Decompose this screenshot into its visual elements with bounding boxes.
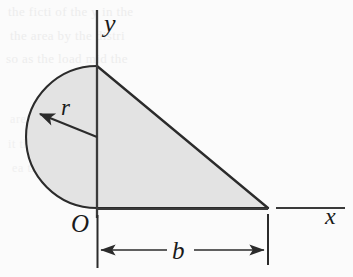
y-axis-label: y: [101, 9, 116, 38]
x-axis-label: x: [324, 203, 336, 229]
radius-label: r: [61, 95, 71, 120]
geometry-figure-container: the ficti of the y in the the area by th…: [0, 0, 353, 277]
semicircle-region: [26, 66, 97, 208]
geometry-figure-svg: the ficti of the y in the the area by th…: [0, 0, 353, 277]
origin-label: O: [71, 210, 89, 237]
base-dimension-label: b: [172, 237, 185, 264]
bleed-line-3: so as the load mid the: [6, 51, 128, 66]
